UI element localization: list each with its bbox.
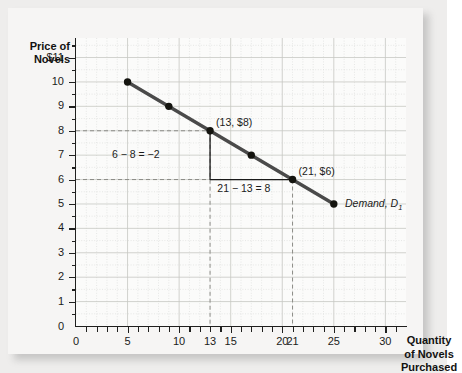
y-tick: [72, 265, 77, 266]
x-tick: [385, 327, 386, 333]
curve-label: Demand, D1: [345, 197, 402, 212]
x-tick: [189, 327, 190, 332]
x-tick-label: 25: [314, 335, 354, 347]
x-tick: [293, 327, 294, 332]
y-tick-label: 9: [24, 99, 64, 111]
x-tick: [313, 327, 314, 332]
x-tick: [272, 327, 273, 332]
y-tick-label: 6: [24, 173, 64, 185]
y-tick-label: 7: [24, 148, 64, 160]
x-axis-title-line1: Quantity: [394, 334, 462, 348]
x-tick: [262, 327, 263, 332]
y-axis-title-line1: Price of: [14, 40, 70, 53]
x-tick: [200, 327, 201, 332]
x-tick: [169, 327, 170, 332]
y-tick: [69, 106, 76, 107]
x-tick: [282, 327, 283, 333]
y-tick-label: 2: [24, 270, 64, 282]
y-tick-label: 3: [24, 246, 64, 258]
y-tick: [69, 58, 76, 59]
y-tick: [69, 155, 76, 156]
point-label-b: (21, $6): [299, 165, 335, 177]
y-tick: [69, 204, 76, 205]
x-tick: [210, 327, 211, 332]
x-tick: [107, 327, 108, 332]
chart-card: 12345678910$1100510131520212530 Price of…: [8, 8, 423, 354]
x-tick: [86, 327, 87, 332]
x-tick: [334, 327, 335, 333]
x-tick: [128, 327, 129, 333]
x-tick: [97, 327, 98, 332]
x-tick-label: 5: [108, 335, 148, 347]
y-tick: [69, 180, 76, 181]
x-tick: [220, 327, 221, 332]
x-tick-label: 15: [211, 335, 251, 347]
run-label: 21 − 13 = 8: [217, 182, 270, 194]
y-tick: [69, 228, 76, 229]
y-tick: [72, 289, 77, 290]
y-tick: [72, 216, 77, 217]
x-tick: [231, 327, 232, 333]
y-tick: [69, 277, 76, 278]
x-tick-label: 21: [273, 335, 313, 347]
y-tick: [72, 143, 77, 144]
x-tick: [138, 327, 139, 332]
rise-label: 6 − 8 = −2: [112, 148, 160, 160]
x-axis-title: Quantity of Novels Purchased: [394, 334, 462, 373]
y-tick-label: 8: [24, 124, 64, 136]
point-label-a: (13, $8): [216, 116, 252, 128]
y-tick-label: 1: [24, 295, 64, 307]
y-tick-label: 4: [24, 221, 64, 233]
y-tick: [72, 119, 77, 120]
y-tick: [69, 302, 76, 303]
y-tick: [72, 241, 77, 242]
x-tick: [354, 327, 355, 332]
y-axis-title: Price of Novels: [14, 40, 70, 66]
x-tick: [159, 327, 160, 332]
y-axis-title-line2: Novels: [14, 53, 70, 66]
x-axis-title-line2: of Novels: [394, 348, 462, 362]
x-axis-title-line3: Purchased: [394, 361, 462, 373]
x-tick: [324, 327, 325, 332]
y-tick: [69, 131, 76, 132]
y-tick-label: 10: [24, 75, 64, 87]
y-tick: [69, 82, 76, 83]
y-tick: [72, 314, 77, 315]
y-tick: [72, 45, 77, 46]
x-tick: [241, 327, 242, 332]
x-tick: [303, 327, 304, 332]
x-tick: [375, 327, 376, 332]
x-tick-label: 0: [56, 335, 96, 347]
y-tick: [72, 94, 77, 95]
x-tick: [251, 327, 252, 332]
x-tick: [396, 327, 397, 332]
y-tick-label: 5: [24, 197, 64, 209]
x-tick: [148, 327, 149, 332]
x-tick: [179, 327, 180, 333]
x-tick: [344, 327, 345, 332]
y-tick: [72, 167, 77, 168]
y-origin-label: 0: [24, 320, 64, 332]
y-tick: [72, 192, 77, 193]
x-tick: [365, 327, 366, 332]
y-tick: [69, 253, 76, 254]
x-tick: [117, 327, 118, 332]
y-tick: [72, 70, 77, 71]
